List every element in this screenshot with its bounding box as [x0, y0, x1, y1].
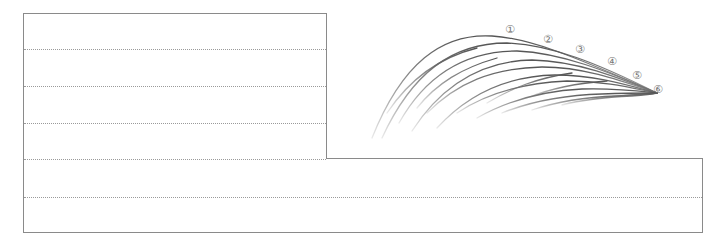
- guide-line-1: [24, 49, 326, 50]
- step-label-6: ⑥: [653, 83, 663, 96]
- stroke-illustration: ① ② ③ ④ ⑤ ⑥: [327, 13, 704, 159]
- guide-line-4: [24, 159, 326, 160]
- guide-line-2: [24, 86, 326, 87]
- step-label-5: ⑤: [632, 69, 642, 82]
- guide-line-3: [24, 123, 326, 124]
- step-label-4: ④: [607, 55, 617, 68]
- stroke-illustration-box: ① ② ③ ④ ⑤ ⑥: [326, 13, 703, 159]
- guide-line-5: [24, 197, 702, 198]
- step-label-1: ①: [505, 23, 515, 36]
- step-label-2: ②: [543, 33, 553, 46]
- step-label-3: ③: [575, 43, 585, 56]
